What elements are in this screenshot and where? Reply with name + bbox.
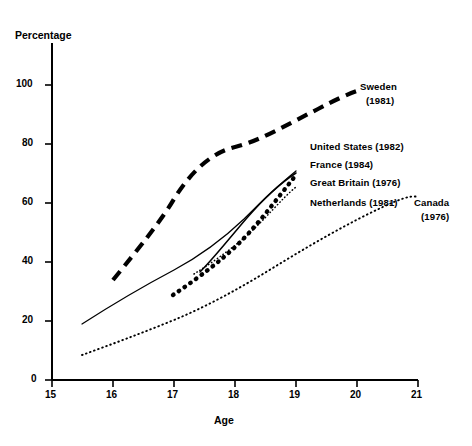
series-line-canada <box>82 196 418 355</box>
x-axis-ticks <box>52 380 418 387</box>
x-tick-label-15: 15 <box>45 389 56 401</box>
y-tick-label-100: 100 <box>16 78 33 90</box>
y-tick-label-40: 40 <box>22 255 33 267</box>
y-tick-label-20: 20 <box>22 314 33 326</box>
chart-container: Percentage Age 0 20 40 60 80 100 15 16 1… <box>0 0 472 446</box>
x-tick-label-21: 21 <box>411 389 422 401</box>
series-label-canada: Canada <box>414 197 449 209</box>
series-line-great-britain <box>173 175 296 295</box>
series-label-netherlands: Netherlands (1981) <box>310 197 398 209</box>
x-tick-label-20: 20 <box>350 389 361 401</box>
series-line-united-states <box>82 171 296 324</box>
series-label-canada-year: (1976) <box>421 211 449 223</box>
y-axis-title: Percentage <box>15 29 72 41</box>
series-label-sweden-year: (1981) <box>366 95 394 107</box>
y-axis-ticks <box>45 85 52 380</box>
series-label-great-britain: Great Britain (1976) <box>310 177 401 189</box>
y-tick-label-0: 0 <box>31 373 37 385</box>
x-tick-label-17: 17 <box>167 389 178 401</box>
x-tick-label-18: 18 <box>228 389 239 401</box>
y-tick-label-60: 60 <box>22 196 33 208</box>
chart-plot-area <box>0 0 472 446</box>
x-axis-title: Age <box>214 414 234 426</box>
y-tick-label-80: 80 <box>22 137 33 149</box>
series-label-sweden: Sweden <box>360 81 397 93</box>
x-tick-label-19: 19 <box>289 389 300 401</box>
series-label-united-states: United States (1982) <box>310 141 404 153</box>
series-line-france <box>200 173 296 272</box>
series-label-france: France (1984) <box>310 159 373 171</box>
x-tick-label-16: 16 <box>106 389 117 401</box>
